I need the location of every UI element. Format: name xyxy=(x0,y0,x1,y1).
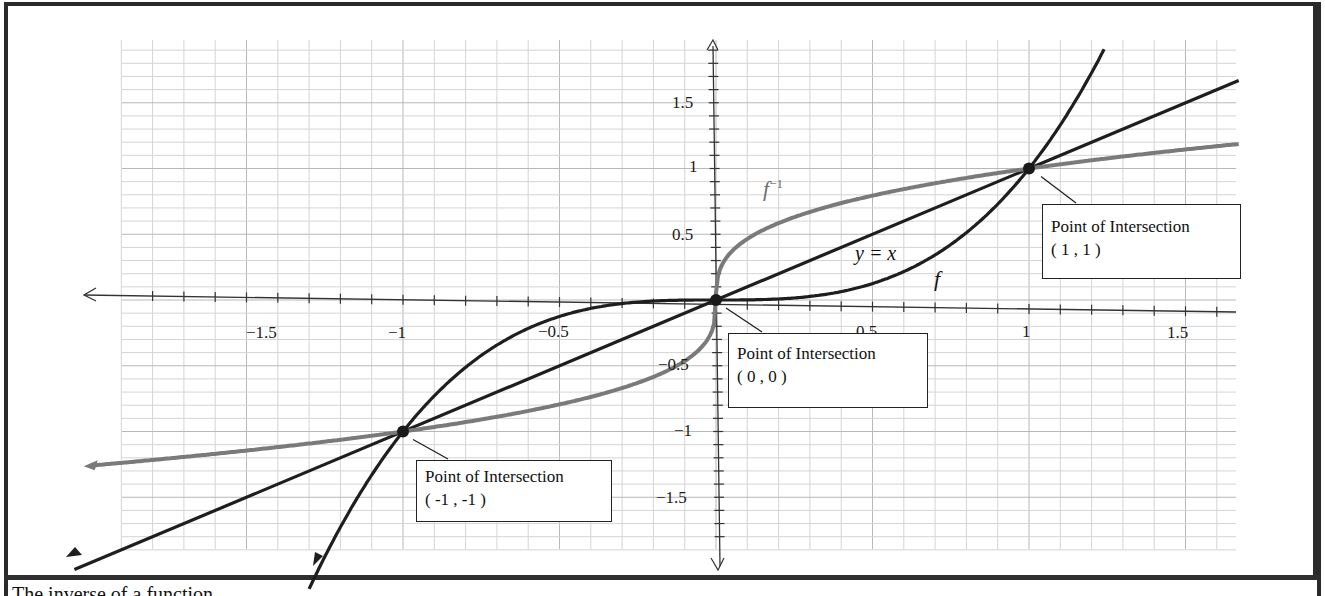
finv-label: f−1 xyxy=(763,176,783,202)
intersection-dot xyxy=(397,426,409,438)
leader-1 xyxy=(1041,177,1076,204)
x-tick-label: 1.5 xyxy=(1167,323,1188,343)
leader-neg1 xyxy=(413,440,448,460)
callout-title: Point of Intersection xyxy=(1051,215,1232,238)
callout-intersection-1: Point of Intersection ( 1 , 1 ) xyxy=(1042,204,1241,279)
callout-intersection-0: Point of Intersection ( 0 , 0 ) xyxy=(728,333,928,408)
y-tick-label: −1 xyxy=(674,421,692,441)
x-axis xyxy=(84,295,1236,312)
y-axis-arrow-down-icon xyxy=(711,558,724,570)
callout-coords: ( 0 , 0 ) xyxy=(737,365,919,388)
caption-text: The inverse of a function xyxy=(12,584,213,596)
curves xyxy=(66,49,1239,589)
y-tick-label: 1.5 xyxy=(672,93,693,113)
curve-f-inverse xyxy=(90,144,1239,466)
finv-arrow-icon xyxy=(84,460,98,470)
intersection-dot xyxy=(710,294,722,306)
finv-label-sup: −1 xyxy=(769,176,783,191)
intersection-dot xyxy=(1023,163,1035,175)
y-tick-label: −0.5 xyxy=(658,355,689,375)
identity-arrow-icon xyxy=(66,547,82,557)
callout-title: Point of Intersection xyxy=(737,342,919,365)
x-tick-label: 1 xyxy=(1022,322,1031,342)
y-tick-label: 0.5 xyxy=(672,225,693,245)
y-tick-label: 1 xyxy=(689,157,698,177)
leader-0 xyxy=(726,308,762,332)
callout-coords: ( 1 , 1 ) xyxy=(1051,238,1232,261)
callout-intersection-neg1: Point of Intersection ( -1 , -1 ) xyxy=(416,460,612,522)
x-tick-label: −1.5 xyxy=(246,323,277,343)
grid-lines xyxy=(121,40,1236,550)
f-label: f xyxy=(934,266,940,292)
callout-leaders xyxy=(413,177,1076,460)
callout-title: Point of Intersection xyxy=(425,465,603,488)
x-tick-label: −1 xyxy=(388,323,406,343)
callout-coords: ( -1 , -1 ) xyxy=(425,488,603,511)
identity-label: y = x xyxy=(855,242,896,265)
y-tick-label: −1.5 xyxy=(656,488,687,508)
x-tick-label: −0.5 xyxy=(538,322,569,342)
